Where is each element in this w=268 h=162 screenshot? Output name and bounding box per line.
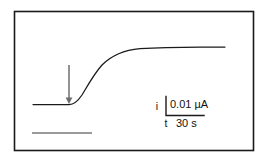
figure-background bbox=[0, 0, 268, 162]
legend-current-value: 0.01 µA bbox=[170, 98, 209, 110]
legend-time-axis-label: t bbox=[165, 117, 168, 129]
figure-container: i 0.01 µA t 30 s bbox=[0, 0, 268, 162]
figure-canvas: i 0.01 µA t 30 s bbox=[0, 0, 268, 162]
legend-current-axis-label: i bbox=[156, 100, 158, 112]
legend-time-value: 30 s bbox=[176, 117, 197, 129]
